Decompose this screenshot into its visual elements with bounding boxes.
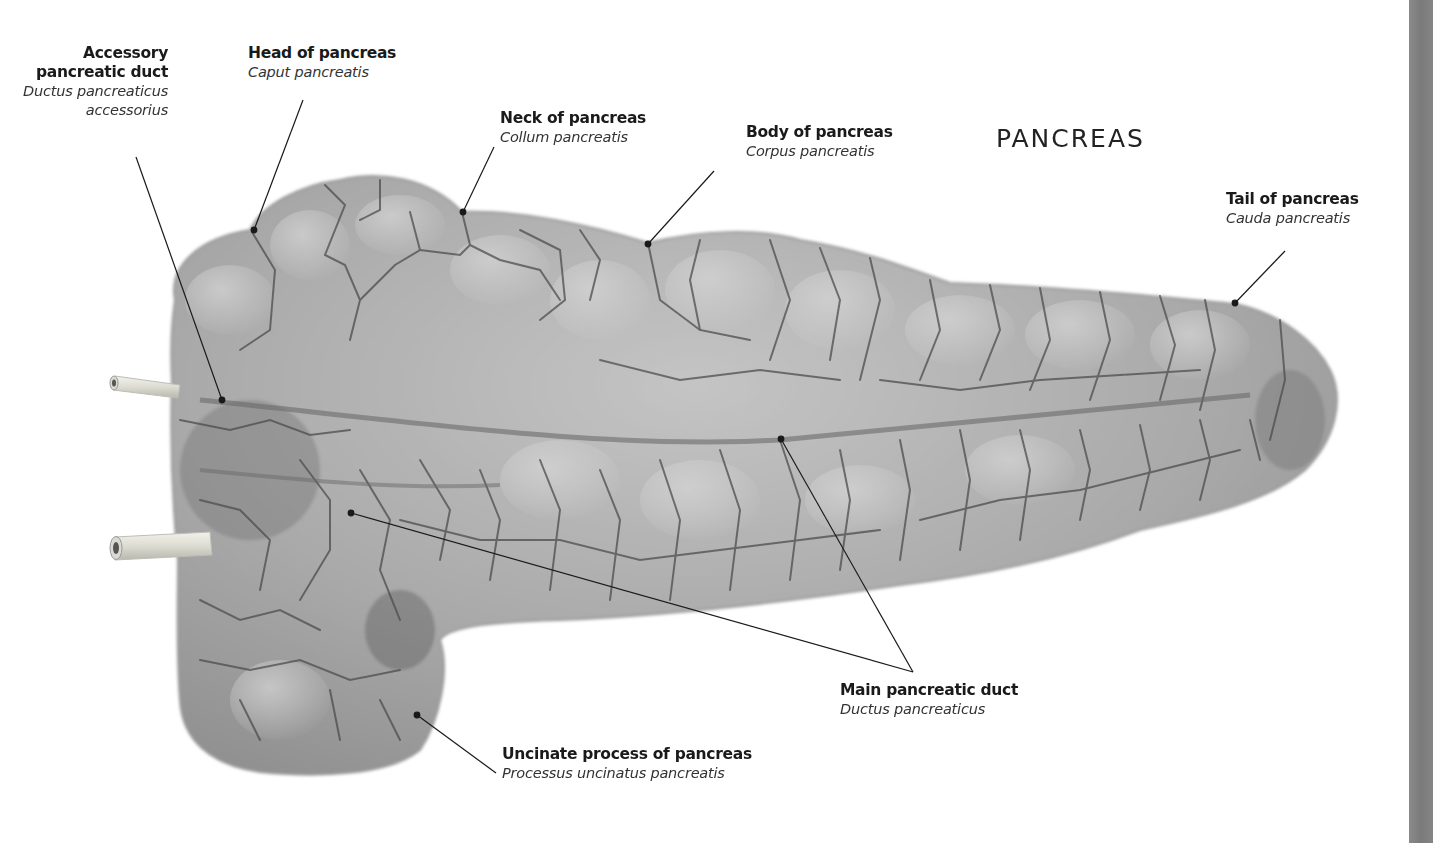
diagram-title: PANCREAS: [996, 124, 1145, 153]
label-la: Collum pancreatis: [500, 128, 646, 147]
label-en: Uncinate process of pancreas: [502, 745, 752, 764]
label-la: accessorius: [23, 101, 168, 120]
label-la: Ductus pancreaticus: [23, 82, 168, 101]
label-la: Cauda pancreatis: [1226, 209, 1359, 228]
label-accessory-pancreatic-duct: Accessory pancreatic duct Ductus pancrea…: [23, 44, 168, 120]
page-edge-bar: [1409, 0, 1433, 843]
label-body-of-pancreas: Body of pancreas Corpus pancreatis: [746, 123, 893, 161]
label-la: Caput pancreatis: [248, 63, 396, 82]
pancreas-diagram: PANCREAS Accessory pancreatic duct Ductu…: [0, 0, 1433, 843]
pancreas-illustration: [0, 0, 1433, 843]
label-en: pancreatic duct: [23, 63, 168, 82]
label-neck-of-pancreas: Neck of pancreas Collum pancreatis: [500, 109, 646, 147]
label-en: Tail of pancreas: [1226, 190, 1359, 209]
label-en: Accessory: [23, 44, 168, 63]
main-duct-tube: [110, 532, 212, 560]
label-tail-of-pancreas: Tail of pancreas Cauda pancreatis: [1226, 190, 1359, 228]
label-en: Head of pancreas: [248, 44, 396, 63]
label-main-pancreatic-duct: Main pancreatic duct Ductus pancreaticus: [840, 681, 1018, 719]
label-la: Ductus pancreaticus: [840, 700, 1018, 719]
label-uncinate-process: Uncinate process of pancreas Processus u…: [502, 745, 752, 783]
label-en: Body of pancreas: [746, 123, 893, 142]
label-la: Corpus pancreatis: [746, 142, 893, 161]
label-en: Neck of pancreas: [500, 109, 646, 128]
accessory-duct-tube: [110, 376, 180, 398]
label-la: Processus uncinatus pancreatis: [502, 764, 752, 783]
label-head-of-pancreas: Head of pancreas Caput pancreatis: [248, 44, 396, 82]
label-en: Main pancreatic duct: [840, 681, 1018, 700]
